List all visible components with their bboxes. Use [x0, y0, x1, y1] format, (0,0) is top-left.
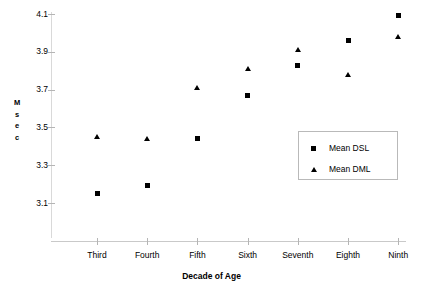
data-point-square — [245, 93, 250, 98]
data-point-triangle — [194, 85, 200, 90]
data-point-triangle — [245, 66, 251, 71]
data-point-square — [95, 191, 100, 196]
data-point-square — [195, 136, 200, 141]
legend-label: Mean DSL — [329, 142, 369, 154]
data-point-triangle — [144, 136, 150, 141]
chart-legend: Mean DSLMean DML — [298, 131, 398, 180]
legend-item-mean-dsl[interactable]: Mean DSL — [299, 140, 397, 156]
triangle-marker-icon — [311, 167, 317, 172]
data-point-square — [145, 183, 150, 188]
data-point-triangle — [395, 34, 401, 39]
data-point-square — [396, 13, 401, 18]
legend-item-mean-dml[interactable]: Mean DML — [299, 161, 397, 177]
data-point-triangle — [345, 72, 351, 77]
data-point-triangle — [94, 134, 100, 139]
square-marker-icon — [311, 146, 316, 151]
data-point-square — [346, 38, 351, 43]
data-point-square — [295, 63, 300, 68]
data-point-triangle — [295, 47, 301, 52]
legend-label: Mean DML — [329, 163, 371, 175]
scatter-chart: M s e c 4.13.93.73.53.33.1 ThirdFourthFi… — [0, 0, 423, 293]
